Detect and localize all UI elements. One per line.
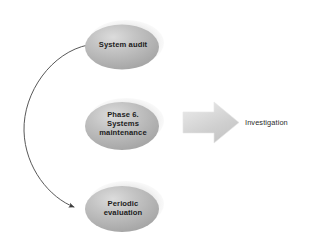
ellipse-phase-6-systems-maintenance[interactable]	[85, 102, 159, 150]
diagram-canvas: System audit Phase 6. Systems maintenanc…	[0, 0, 313, 245]
curved-connector-path	[24, 45, 88, 207]
ellipse-periodic-evaluation[interactable]	[85, 186, 159, 232]
outcome-label-investigation: Investigation	[245, 118, 311, 127]
ellipse-system-audit[interactable]	[85, 25, 159, 70]
block-arrow-right-icon	[183, 102, 239, 143]
node-ellipses	[85, 25, 159, 233]
